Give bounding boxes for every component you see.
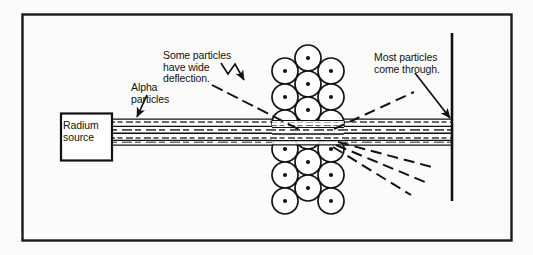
wide-deflection-label: Some particles have wide deflection. <box>163 50 231 85</box>
nucleus-dot <box>329 173 333 177</box>
nucleus-dot <box>283 173 287 177</box>
nucleus-dot <box>329 199 333 203</box>
nucleus-dot <box>283 147 287 151</box>
nucleus-dot <box>329 69 333 73</box>
most-particles-come-through-label: Most particles come through. <box>374 52 440 75</box>
nucleus-dot <box>306 160 310 164</box>
most-particles-arrow <box>415 73 450 118</box>
nucleus-dot <box>306 186 310 190</box>
nucleus-dot <box>329 95 333 99</box>
alpha-particles-label: Alpha particles <box>131 82 169 105</box>
nucleus-dot <box>329 147 333 151</box>
nucleus-dot <box>283 95 287 99</box>
nucleus-dot <box>306 56 310 60</box>
nucleus-dot <box>306 82 310 86</box>
nucleus-dot <box>283 199 287 203</box>
radium-source-label: Radium source <box>63 120 111 143</box>
alpha-beam-through-foil <box>272 120 344 145</box>
figure-canvas: Radium source Alpha particles Some parti… <box>0 0 533 255</box>
nucleus-dot <box>306 108 310 112</box>
nucleus-dot <box>283 69 287 73</box>
